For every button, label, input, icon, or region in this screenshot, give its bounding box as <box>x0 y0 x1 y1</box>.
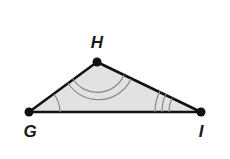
vertex-h-label: H <box>91 33 104 52</box>
vertex-i-point <box>197 108 206 117</box>
triangle-diagram: H G I <box>0 0 230 159</box>
vertex-i-label: I <box>199 122 205 141</box>
vertex-h-point <box>93 58 102 67</box>
vertex-g-label: G <box>23 122 36 141</box>
vertex-g-point <box>25 108 34 117</box>
